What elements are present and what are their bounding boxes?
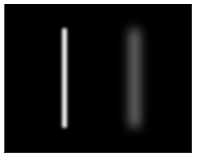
canvas-right-edge xyxy=(191,4,192,153)
image-page xyxy=(0,0,203,160)
canvas-bottom-edge xyxy=(4,152,192,153)
sharp-vertical-line xyxy=(62,28,67,128)
canvas-left-edge xyxy=(4,4,5,153)
image-canvas xyxy=(4,4,192,153)
blurred-vertical-line xyxy=(130,29,139,127)
